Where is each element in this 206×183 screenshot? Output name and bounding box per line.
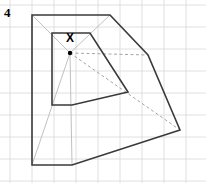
centre-point-label: X: [66, 32, 74, 44]
dashed-construction-ray: [70, 53, 148, 55]
construction-ray: [70, 53, 72, 165]
construction-ray: [32, 53, 70, 165]
construction-ray: [32, 15, 70, 53]
geometry-diagram: [0, 0, 206, 183]
question-number-label: 4: [4, 6, 11, 19]
original-quadrilateral: [52, 33, 128, 105]
figure-container: 4 X: [0, 0, 206, 183]
centre-point-dot: [68, 51, 72, 55]
